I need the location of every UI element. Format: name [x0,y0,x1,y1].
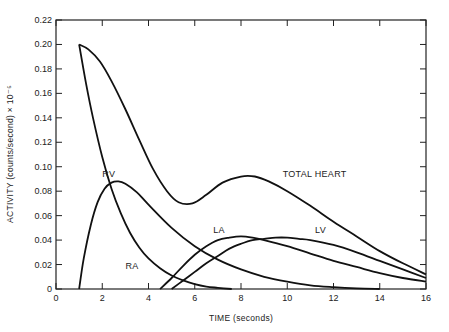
x-tick-label: 12 [328,293,338,303]
label-total-heart: TOTAL HEART [283,169,347,179]
x-axis-title: TIME (seconds) [209,313,273,323]
y-tick-label: 0.22 [34,15,52,25]
x-tick-label: 0 [53,293,58,303]
plot-curves [79,44,426,289]
x-tick-label: 4 [146,293,151,303]
y-tick-label: 0.04 [34,235,52,245]
y-tick-label: 0.02 [34,260,52,270]
y-tick-label: 0.18 [34,64,52,74]
x-tick-label: 14 [375,293,385,303]
y-tick-label: 0.20 [34,39,52,49]
y-tick-label: 0.16 [34,88,52,98]
curve-ra [79,44,232,289]
plot-axes: 024681012141600.020.040.060.080.100.120.… [34,15,431,303]
label-lv: LV [315,225,326,235]
y-tick-label: 0.12 [34,137,52,147]
y-tick-label: 0.08 [34,186,52,196]
x-tick-label: 6 [192,293,197,303]
y-tick-label: 0.06 [34,211,52,221]
y-tick-label: 0.10 [34,162,52,172]
label-la: LA [213,225,225,235]
curve-rv [79,181,380,289]
curve-labels: TOTAL HEARTRVRALALV [102,169,347,272]
x-tick-label: 10 [282,293,292,303]
chart: 024681012141600.020.040.060.080.100.120.… [0,0,449,332]
x-tick-label: 16 [421,293,431,303]
label-rv: RV [102,169,115,179]
x-tick-label: 8 [238,293,243,303]
y-tick-label: 0.14 [34,113,52,123]
curve-lv [172,237,426,289]
x-tick-label: 2 [100,293,105,303]
label-ra: RA [125,261,138,271]
y-tick-label: 0 [47,284,52,294]
plot-frame [56,20,426,289]
y-axis-title: ACTIVITY (counts/second) × 10⁻⁵ [5,85,15,223]
